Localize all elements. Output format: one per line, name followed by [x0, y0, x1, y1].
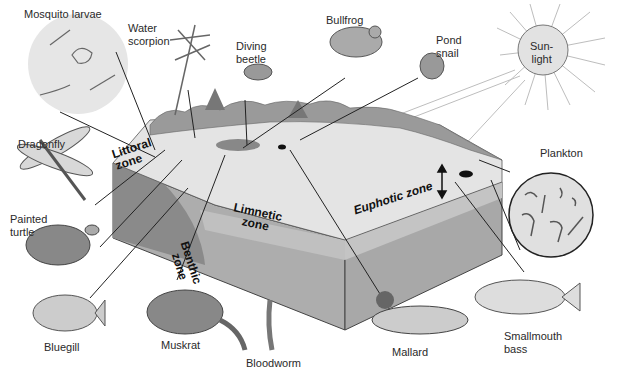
bullfrog-icon — [330, 26, 382, 57]
painted-turtle-label: Painted turtle — [10, 213, 47, 239]
diving-beetle-label: Diving beetle — [236, 40, 267, 66]
mosquito-larvae-label: Mosquito larvae — [24, 8, 102, 21]
diving-beetle-icon — [244, 64, 272, 80]
pond-ecosystem-diagram: Littoral zone Limnetic zone Benthic zone… — [0, 0, 620, 373]
water-scorpion-label: Water scorpion — [128, 22, 170, 48]
dragonfly-icon — [15, 121, 96, 200]
bloodworm-label: Bloodworm — [246, 357, 301, 370]
duck-silhouette — [278, 145, 286, 150]
smallmouth-bass-label: Smallmouth bass — [504, 330, 562, 356]
plankton-magnified — [509, 173, 593, 257]
muskrat-label: Muskrat — [161, 339, 200, 352]
bluegill-icon — [33, 295, 105, 331]
sunlight-label: Sun- light — [530, 40, 553, 66]
bass-silhouette — [459, 171, 473, 178]
tree-1 — [205, 88, 225, 110]
mallard-label: Mallard — [392, 346, 428, 359]
smallmouth-bass-icon — [475, 280, 580, 314]
bluegill-label: Bluegill — [44, 341, 79, 354]
mallard-icon — [372, 291, 468, 334]
bullfrog-label: Bullfrog — [326, 14, 363, 27]
plankton-label: Plankton — [540, 147, 583, 160]
dragonfly-label: Dragonfly — [18, 138, 65, 151]
pond-snail-label: Pond snail — [436, 34, 462, 60]
diagram-artwork — [0, 0, 620, 373]
bloodworm-icon — [269, 300, 272, 350]
mosquito-larvae-magnified — [28, 14, 128, 114]
